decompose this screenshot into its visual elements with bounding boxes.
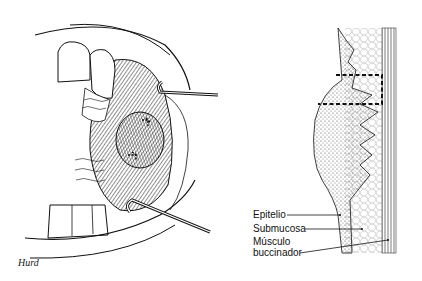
label-musculo: Músculo — [253, 236, 290, 247]
label-epitelio: Epitelio — [253, 209, 286, 220]
artist-signature: Hurd — [18, 257, 39, 268]
medical-illustration — [0, 0, 422, 281]
oral-cavity-view — [25, 24, 218, 258]
label-submucosa: Submucosa — [253, 223, 306, 234]
mucosa-cross-section — [287, 28, 396, 253]
label-buccinador: buccinador — [253, 247, 302, 258]
